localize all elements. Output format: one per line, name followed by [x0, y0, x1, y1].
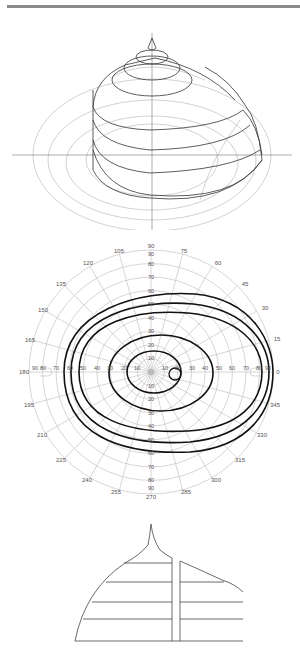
- hill-cross-section: [0, 0, 300, 656]
